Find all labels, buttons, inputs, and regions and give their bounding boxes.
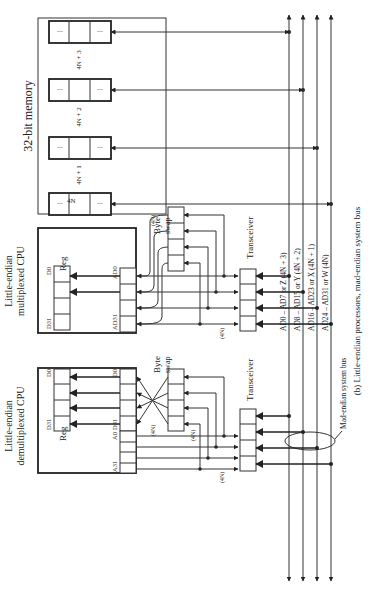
system-bus: AD0 – AD7 or Z (4N + 3) AD8 – AD15 or Y … — [279, 15, 362, 581]
memory-frame — [38, 18, 166, 214]
memory-word-4n: ... ... 4N — [49, 193, 111, 215]
svg-text:...: ... — [97, 197, 103, 206]
svg-text:...: ... — [97, 83, 103, 92]
memory-word-label: 4N + 1 — [75, 165, 83, 185]
svg-text:D0: D0 — [45, 267, 52, 275]
svg-text:D31: D31 — [45, 318, 52, 329]
svg-text:Little-endian: Little-endian — [3, 400, 14, 452]
svg-text:D0: D0 — [45, 369, 52, 377]
svg-text:Little-endian: Little-endian — [3, 255, 14, 307]
memory-word-label: 4N + 2 — [75, 107, 83, 127]
svg-text:D31: D31 — [45, 419, 52, 430]
svg-text:D0: D0 — [111, 369, 118, 377]
svg-text:Byte: Byte — [152, 356, 162, 373]
memory-title: 32-bit memory — [21, 80, 35, 152]
svg-text:AD31: AD31 — [111, 314, 118, 330]
memory-word-label: 4N + 3 — [75, 50, 83, 70]
svg-text:4N: 4N — [67, 197, 76, 205]
svg-text:...: ... — [57, 197, 63, 206]
svg-text:...: ... — [97, 141, 103, 150]
svg-text:demultiplexed CPU: demultiplexed CPU — [15, 386, 26, 466]
svg-text:Reg: Reg — [58, 256, 68, 271]
svg-text:(4N): (4N) — [190, 430, 197, 441]
memory-block: 32-bit memory ... ... 4N + 3 ... ... 4N … — [21, 18, 333, 215]
svg-text:...: ... — [97, 25, 103, 34]
diagram-canvas: 32-bit memory ... ... 4N + 3 ... ... 4N … — [0, 0, 374, 601]
svg-text:(4N): (4N) — [219, 328, 226, 339]
svg-text:...: ... — [57, 141, 63, 150]
svg-text:A31: A31 — [111, 461, 118, 472]
demultiplexed-cpu: Little-endian demultiplexed CPU Reg D0 D… — [3, 356, 333, 483]
svg-text:AD0: AD0 — [111, 266, 118, 279]
svg-text:...: ... — [57, 25, 63, 34]
svg-text:A0: A0 — [111, 432, 118, 440]
svg-text:Transceiver: Transceiver — [245, 359, 255, 401]
figure-caption: (b) Little-endian processors, mad-endian… — [352, 206, 362, 395]
bus-label: Mad-endian system bus — [339, 358, 348, 429]
svg-text:swap: swap — [163, 357, 172, 373]
svg-text:...: ... — [57, 83, 63, 92]
bus-line-label: AD24 – AD31 or W (4N) — [321, 254, 330, 331]
svg-text:(4N): (4N) — [219, 472, 226, 483]
bus-line-label: AD8 – AD15 or Y (4N + 2) — [293, 248, 302, 331]
bus-line-label: AD16 – AD23 or X (4N + 1) — [307, 244, 316, 331]
svg-text:multiplexed CPU: multiplexed CPU — [15, 245, 26, 316]
svg-text:(4N): (4N) — [150, 425, 157, 436]
svg-text:Transceiver: Transceiver — [245, 217, 255, 259]
svg-text:Reg: Reg — [58, 426, 68, 441]
